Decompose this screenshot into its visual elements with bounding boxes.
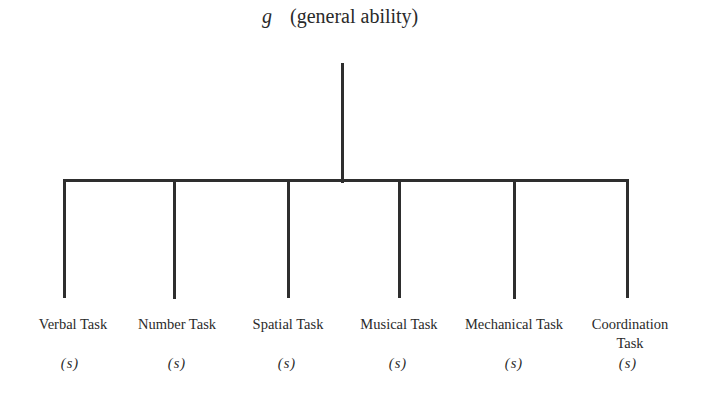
- branch-line-spatial: [287, 179, 290, 298]
- branch-line-musical: [398, 179, 401, 298]
- branch-line-number: [173, 179, 176, 299]
- specific-factor-musical: (s): [389, 355, 407, 372]
- child-label-spatial: Spatial Task: [253, 315, 324, 334]
- specific-factor-verbal: (s): [61, 355, 79, 372]
- root-node: g(general ability): [262, 5, 418, 28]
- specific-factor-spatial: (s): [278, 355, 296, 372]
- branch-line-verbal: [63, 179, 66, 298]
- child-label-coordination: Coordination Task: [585, 315, 675, 353]
- branch-line-coordination: [626, 179, 629, 298]
- specific-factor-coordination: (s): [619, 355, 637, 372]
- root-stem: [341, 63, 344, 183]
- child-label-number: Number Task: [138, 315, 216, 334]
- specific-factor-mechanical: (s): [505, 355, 523, 372]
- root-label: (general ability): [290, 5, 418, 27]
- branch-line-mechanical: [513, 179, 516, 299]
- child-label-mechanical: Mechanical Task: [465, 315, 563, 334]
- horizontal-connector: [63, 179, 629, 182]
- specific-factor-number: (s): [168, 355, 186, 372]
- root-symbol: g: [262, 5, 272, 27]
- child-label-verbal: Verbal Task: [39, 315, 107, 334]
- child-label-musical: Musical Task: [360, 315, 437, 334]
